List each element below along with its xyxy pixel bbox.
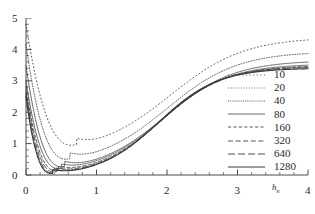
legend-label: 20 xyxy=(265,82,285,93)
legend-label: 80 xyxy=(265,109,285,120)
legend: 102040801603206401280 xyxy=(228,68,314,174)
legend-label: 640 xyxy=(265,148,291,159)
legend-item-20[interactable]: 20 xyxy=(228,81,314,94)
y-tick-label: 0 xyxy=(12,170,18,181)
legend-item-10[interactable]: 10 xyxy=(228,68,314,81)
y-tick-label: 2 xyxy=(12,107,18,118)
legend-line-swatch xyxy=(228,70,265,80)
legend-label: 10 xyxy=(265,69,285,80)
legend-item-1280[interactable]: 1280 xyxy=(228,160,314,173)
legend-line-swatch xyxy=(228,96,265,106)
y-tick-label: 3 xyxy=(12,75,18,86)
legend-line-swatch xyxy=(228,109,265,119)
x-tick-label: 3 xyxy=(235,185,241,196)
x-tick-label: 4 xyxy=(305,185,311,196)
legend-item-320[interactable]: 320 xyxy=(228,134,314,147)
x-tick-label: 1 xyxy=(94,185,100,196)
y-tick-label: 4 xyxy=(12,44,18,55)
legend-item-640[interactable]: 640 xyxy=(228,147,314,160)
x-axis-title-subscript: n xyxy=(277,188,280,194)
legend-label: 40 xyxy=(265,95,285,106)
legend-line-swatch xyxy=(228,136,265,146)
chart-figure: 01234 012345 hn 102040801603206401280 xyxy=(0,0,315,214)
legend-label: 1280 xyxy=(265,161,296,172)
y-tick-label: 1 xyxy=(12,138,18,149)
legend-label: 160 xyxy=(265,122,291,133)
legend-item-160[interactable]: 160 xyxy=(228,121,314,134)
legend-line-swatch xyxy=(228,83,265,93)
legend-line-swatch xyxy=(228,149,265,159)
x-tick-label: 0 xyxy=(23,185,29,196)
x-tick-label: 2 xyxy=(164,185,170,196)
legend-item-80[interactable]: 80 xyxy=(228,108,314,121)
legend-label: 320 xyxy=(265,135,291,146)
legend-item-40[interactable]: 40 xyxy=(228,94,314,107)
legend-line-swatch xyxy=(228,122,265,132)
legend-line-swatch xyxy=(228,162,265,172)
y-tick-label: 5 xyxy=(12,13,18,24)
x-axis-title: hn xyxy=(272,183,280,194)
